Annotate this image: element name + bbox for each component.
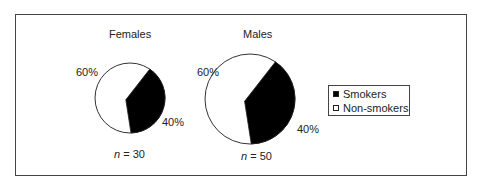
males-title: Males xyxy=(243,28,272,40)
males-nonsmokers-label: 60% xyxy=(197,66,219,78)
n-value: = 50 xyxy=(250,150,272,162)
n-value: = 30 xyxy=(123,148,145,160)
smokers-swatch-icon xyxy=(333,91,339,97)
n-symbol: n xyxy=(241,150,247,162)
males-n-label: n = 50 xyxy=(241,150,272,162)
males-smokers-label: 40% xyxy=(297,123,319,135)
females-title: Females xyxy=(109,28,151,40)
females-nonsmokers-label: 60% xyxy=(76,66,98,78)
females-n-label: n = 30 xyxy=(114,148,145,160)
legend-item-smokers: Smokers xyxy=(333,88,386,100)
legend-label: Smokers xyxy=(343,88,386,100)
legend: Smokers Non-smokers xyxy=(328,85,410,116)
non-smokers-swatch-icon xyxy=(333,105,339,111)
n-symbol: n xyxy=(114,148,120,160)
females-smokers-label: 40% xyxy=(162,116,184,128)
legend-item-non-smokers: Non-smokers xyxy=(333,102,408,114)
females-pie xyxy=(95,63,165,133)
legend-label: Non-smokers xyxy=(343,102,408,114)
